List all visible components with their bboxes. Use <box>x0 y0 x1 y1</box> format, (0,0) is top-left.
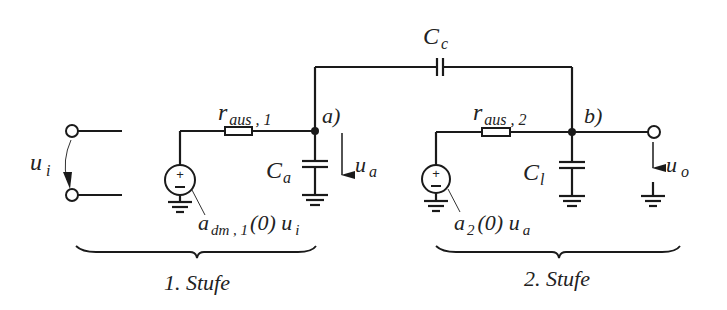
label-r-aus-2: raus , 2 <box>473 99 527 128</box>
input-port <box>63 125 122 201</box>
output-port <box>572 126 665 206</box>
capacitor-c-a <box>302 161 328 205</box>
label-u-i: ui <box>30 149 50 179</box>
label-stage-2: 2. Stufe <box>524 266 590 291</box>
label-node-a: a) <box>322 103 340 128</box>
label-c-c: Cc <box>423 23 448 52</box>
brace-stage-1 <box>76 246 316 258</box>
label-node-b: b) <box>584 103 602 128</box>
ui-arrow-icon <box>63 172 72 189</box>
resistor-r-aus-1 <box>225 127 252 135</box>
ground-icon <box>302 195 328 205</box>
label-r-aus-1: raus , 1 <box>218 99 272 128</box>
ground-icon <box>641 196 665 206</box>
label-source-1: adm , 1(0) ui <box>198 210 299 238</box>
plus-icon: + <box>432 166 440 181</box>
voltage-source-1: + <box>165 131 205 215</box>
brace-stage-2 <box>436 246 680 258</box>
ground-icon <box>424 201 448 211</box>
ground-icon <box>168 202 192 212</box>
circuit-diagram: ui + raus , 1 a) Ca ua adm , 1 <box>0 0 727 310</box>
label-c-l: Cl <box>523 159 545 188</box>
label-u-o: uo <box>666 152 689 180</box>
plus-icon: + <box>176 167 184 182</box>
ground-icon <box>559 196 585 206</box>
resistor-r-aus-2 <box>482 128 510 136</box>
capacitor-c-l <box>559 132 585 206</box>
label-source-2: a2(0) ua <box>454 210 530 238</box>
label-c-a: Ca <box>266 157 291 186</box>
voltage-source-2: + <box>422 132 460 212</box>
label-u-a: ua <box>355 152 377 180</box>
capacitor-c-c <box>315 58 572 132</box>
label-stage-1: 1. Stufe <box>164 270 230 295</box>
